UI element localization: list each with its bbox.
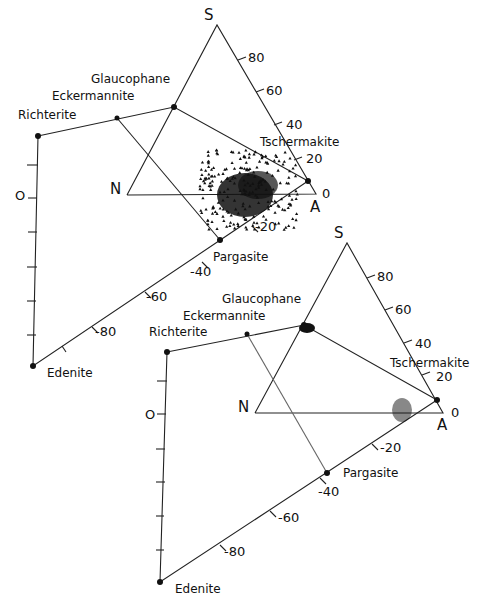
- lower-label-zero-left: O: [145, 408, 155, 421]
- upper-label-s: S: [204, 8, 214, 23]
- lower-label-tschermakite: Tschermakite: [390, 357, 469, 369]
- lower-tick-40: 40: [415, 337, 432, 350]
- lower-label-n: N: [238, 400, 249, 415]
- upper-tick-40: 40: [286, 118, 303, 131]
- lower-label-glaucophane: Glaucophane: [222, 293, 301, 305]
- upper-label-edenite: Edenite: [47, 367, 93, 379]
- lower-tick-60: 60: [395, 303, 412, 316]
- upper-data-points: [198, 148, 298, 230]
- upper-tick-m60: -60: [146, 290, 167, 303]
- lower-tick-80: 80: [377, 270, 394, 283]
- lower-label-edenite: Edenite: [175, 583, 221, 595]
- upper-label-glaucophane: Glaucophane: [91, 73, 170, 85]
- upper-label-richterite: Richterite: [18, 109, 76, 121]
- upper-label-zero-right: 0: [322, 187, 330, 200]
- lower-label-zero-right: 0: [451, 406, 459, 419]
- upper-label-zero-left: O: [15, 189, 25, 202]
- lower-tick-20: 20: [436, 370, 453, 383]
- upper-tick-20: 20: [306, 152, 323, 165]
- upper-label-pargasite: Pargasite: [213, 251, 268, 263]
- lower-tick-m20: -20: [380, 441, 401, 454]
- upper-label-n: N: [110, 182, 121, 197]
- lower-label-pargasite: Pargasite: [343, 467, 398, 479]
- lower-data-points: [299, 323, 412, 422]
- lower-tick-m80: -80: [224, 545, 245, 558]
- upper-tick-m20: -20: [255, 220, 276, 233]
- upper-label-a: A: [310, 200, 320, 215]
- lower-tick-m60: -60: [278, 511, 299, 524]
- upper-label-eckermannite: Eckermannite: [52, 90, 134, 102]
- upper-tick-80: 80: [248, 51, 265, 64]
- lower-label-a: A: [437, 418, 447, 433]
- upper-tick-m40: -40: [190, 265, 211, 278]
- lower-label-richterite: Richterite: [149, 326, 207, 338]
- lower-tick-m40: -40: [318, 485, 339, 498]
- upper-tick-60: 60: [266, 84, 283, 97]
- lower-label-s: S: [334, 226, 344, 241]
- upper-label-tschermakite: Tschermakite: [260, 136, 339, 148]
- lower-label-eckermannite: Eckermannite: [183, 310, 265, 322]
- upper-tick-m80: -80: [95, 325, 116, 338]
